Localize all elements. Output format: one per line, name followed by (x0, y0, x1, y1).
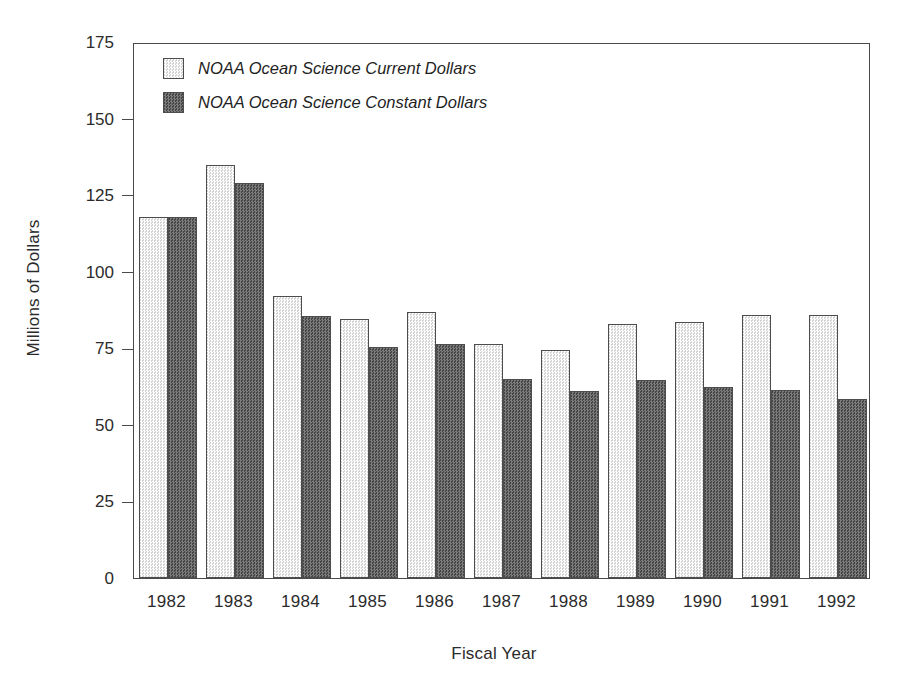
x-axis-tick-label-1991: 1991 (736, 592, 803, 612)
bar-current-1990 (675, 322, 704, 578)
bar-constant-1982 (168, 217, 197, 578)
bar-current-1982 (139, 217, 168, 578)
x-axis-tick-label-1987: 1987 (468, 592, 535, 612)
plot-area (133, 43, 870, 579)
x-axis-tick-label-1988: 1988 (535, 592, 602, 612)
y-axis-tick-label: 50 (54, 416, 114, 436)
x-axis-tick-label-1992: 1992 (803, 592, 870, 612)
bar-current-1985 (340, 319, 369, 578)
bar-constant-1986 (436, 344, 465, 578)
x-axis-tick-label-1990: 1990 (669, 592, 736, 612)
bar-constant-1987 (503, 379, 532, 578)
legend-label: NOAA Ocean Science Current Dollars (198, 59, 476, 78)
bar-current-1984 (273, 296, 302, 578)
bar-current-1983 (206, 165, 235, 578)
x-axis-tick-label-1986: 1986 (401, 592, 468, 612)
y-axis-tick-label: 25 (54, 492, 114, 512)
legend-swatch-dark (163, 92, 184, 113)
x-axis-tick-label-1985: 1985 (334, 592, 401, 612)
y-axis-title: Millions of Dollars (24, 188, 44, 388)
legend-item-2: NOAA Ocean Science Constant Dollars (163, 87, 493, 117)
bar-current-1987 (474, 344, 503, 578)
bar-constant-1990 (704, 387, 733, 578)
y-axis-tick-label: 150 (54, 110, 114, 130)
x-axis-tick-label-1982: 1982 (133, 592, 200, 612)
bar-current-1991 (742, 315, 771, 578)
bar-constant-1988 (570, 391, 599, 578)
bar-constant-1984 (302, 316, 331, 578)
x-axis-tick-label-1989: 1989 (602, 592, 669, 612)
y-axis-tick-label: 0 (54, 569, 114, 589)
y-axis-tick-label: 175 (54, 33, 114, 53)
y-axis-tick-label: 75 (54, 339, 114, 359)
bar-constant-1985 (369, 347, 398, 578)
legend-swatch-light (163, 58, 184, 79)
bar-constant-1991 (771, 390, 800, 578)
bar-constant-1989 (637, 380, 666, 578)
legend-label: NOAA Ocean Science Constant Dollars (198, 93, 487, 112)
bar-chart-figure: Millions of Dollars Fiscal Year 02550751… (0, 0, 901, 688)
x-axis-tick-label-1983: 1983 (200, 592, 267, 612)
y-axis-tick-label: 100 (54, 263, 114, 283)
bar-current-1988 (541, 350, 570, 578)
x-axis-tick-label-1984: 1984 (267, 592, 334, 612)
x-axis-title: Fiscal Year (118, 644, 870, 664)
bar-current-1989 (608, 324, 637, 578)
legend-item-1: NOAA Ocean Science Current Dollars (163, 53, 493, 83)
bar-constant-1992 (838, 399, 867, 578)
bar-current-1986 (407, 312, 436, 578)
bar-constant-1983 (235, 183, 264, 578)
y-axis-tick-label: 125 (54, 186, 114, 206)
bar-current-1992 (809, 315, 838, 578)
chart-legend: NOAA Ocean Science Current DollarsNOAA O… (163, 53, 493, 121)
